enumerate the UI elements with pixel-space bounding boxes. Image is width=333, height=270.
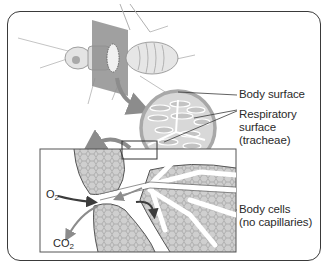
co2-base: CO (53, 237, 70, 249)
label-respiratory-surface: Respiratory surface (tracheae) (239, 108, 297, 147)
label-co2: CO2 (53, 237, 74, 251)
label-o2: O2 (46, 188, 59, 202)
label-body-surface: Body surface (239, 88, 305, 101)
insect-illustration (18, 4, 195, 104)
co2-sub: 2 (70, 242, 74, 251)
label-body-cells-line2: (no capillaries) (239, 216, 312, 229)
label-body-cells-line1: Body cells (239, 203, 312, 216)
o2-base: O (46, 188, 55, 200)
label-respiratory-line1: Respiratory (239, 108, 297, 121)
label-respiratory-line2: surface (239, 121, 297, 134)
o2-sub: 2 (55, 193, 59, 202)
label-body-cells: Body cells (no capillaries) (239, 203, 312, 229)
label-respiratory-line3: (tracheae) (239, 134, 297, 147)
